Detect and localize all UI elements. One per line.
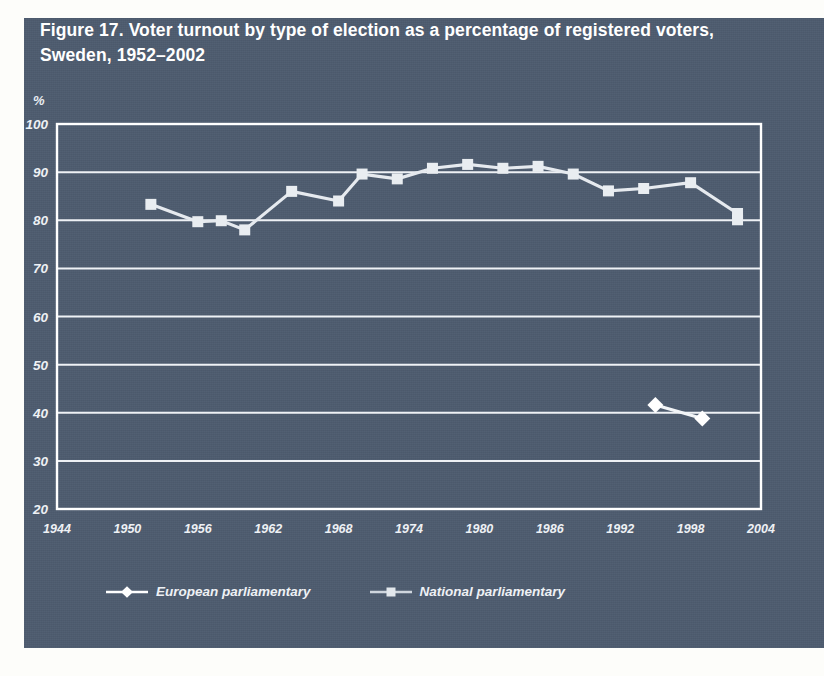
y-tick-label: 70 xyxy=(33,261,48,276)
data-point-national xyxy=(603,185,614,196)
y-tick-label: 40 xyxy=(33,405,48,420)
legend-item-european[interactable]: European parliamentary xyxy=(105,584,311,599)
legend-label-european: European parliamentary xyxy=(156,584,311,599)
plot-area: 1009080706050403020 19441950195619621968… xyxy=(57,124,761,509)
y-tick-label: 100 xyxy=(25,117,48,132)
data-point-national xyxy=(497,163,508,174)
square-marker-icon xyxy=(369,585,413,599)
x-tick-label: 1998 xyxy=(677,522,705,536)
data-point-national xyxy=(357,169,368,180)
legend-item-national[interactable]: National parliamentary xyxy=(369,584,566,599)
y-tick-label: 20 xyxy=(33,502,48,517)
y-tick-label: 60 xyxy=(33,309,48,324)
x-tick-label: 1956 xyxy=(184,522,212,536)
x-tick-label: 1992 xyxy=(606,522,634,536)
data-point-national xyxy=(533,161,544,172)
x-tick-label: 1986 xyxy=(536,522,564,536)
y-tick-label: 80 xyxy=(33,213,48,228)
data-point-national xyxy=(685,177,696,188)
legend-label-national: National parliamentary xyxy=(420,584,566,599)
data-point-national xyxy=(732,214,743,225)
data-point-national xyxy=(333,196,344,207)
chart-legend: European parliamentary National parliame… xyxy=(105,584,565,599)
diamond-marker-icon xyxy=(105,585,149,599)
chart-canvas xyxy=(57,124,761,509)
data-point-national xyxy=(427,163,438,174)
x-tick-label: 1974 xyxy=(395,522,423,536)
data-point-european xyxy=(647,397,663,413)
y-tick-label: 30 xyxy=(33,453,48,468)
x-tick-label: 1950 xyxy=(113,522,141,536)
x-tick-label: 1980 xyxy=(465,522,493,536)
x-tick-label: 1968 xyxy=(325,522,353,536)
x-tick-label: 2004 xyxy=(747,522,775,536)
data-point-national xyxy=(638,183,649,194)
data-point-national xyxy=(145,199,156,210)
data-point-national xyxy=(286,186,297,197)
y-axis-unit-label: % xyxy=(33,93,45,108)
y-tick-label: 90 xyxy=(33,165,48,180)
data-point-national xyxy=(568,169,579,180)
data-point-national xyxy=(216,215,227,226)
data-point-national xyxy=(392,173,403,184)
x-tick-label: 1962 xyxy=(254,522,282,536)
data-point-national xyxy=(462,159,473,170)
y-tick-label: 50 xyxy=(33,357,48,372)
figure-title: Figure 17. Voter turnout by type of elec… xyxy=(40,18,740,68)
x-tick-label: 1944 xyxy=(43,522,71,536)
data-point-national xyxy=(239,224,250,235)
data-point-national xyxy=(192,216,203,227)
figure-page: Figure 17. Voter turnout by type of elec… xyxy=(0,0,824,676)
